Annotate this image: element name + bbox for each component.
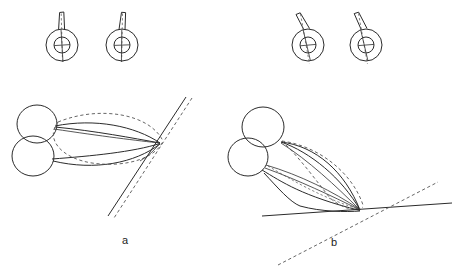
b-dashed-diagonal-line [278,182,438,265]
a-upper-lens-bottom-edge [55,127,160,143]
gauge-horizontal-chord-icon [300,44,316,45]
b-upper-circle [242,107,284,147]
gauge-horizontal-chord-icon [114,45,130,46]
panel-label-b: b [331,236,337,248]
b-upper-lens-right-edge [281,142,360,210]
panel-a-group [12,12,192,218]
gauge-pointer-line-icon [61,30,63,63]
a-lower-circle [12,136,54,176]
figure-canvas: a b [0,0,454,271]
gauge-horizontal-chord-icon [358,44,374,45]
a-upper-circle [17,105,57,143]
b-upper-lens-left-edge [281,142,360,210]
b-lower-lens-lower-edge [264,173,360,211]
a-gauge-2 [106,12,138,64]
a-lower-lens-top-edge [52,144,160,160]
gauge-needle-icon [354,12,367,29]
b-gauge-1 [292,13,324,64]
panel-b-group [228,12,452,265]
a-dashed-tangent-line [114,98,192,218]
diagram-svg [0,0,454,271]
b-lower-lens-upper-edge [262,170,360,211]
gauge-horizontal-chord-icon [54,45,70,46]
b-gauge-2 [350,12,382,64]
a-gauge-1 [46,12,78,64]
gauge-needle-icon [296,13,310,30]
panel-label-a: a [122,234,128,246]
a-inner-chord-1 [54,129,160,143]
